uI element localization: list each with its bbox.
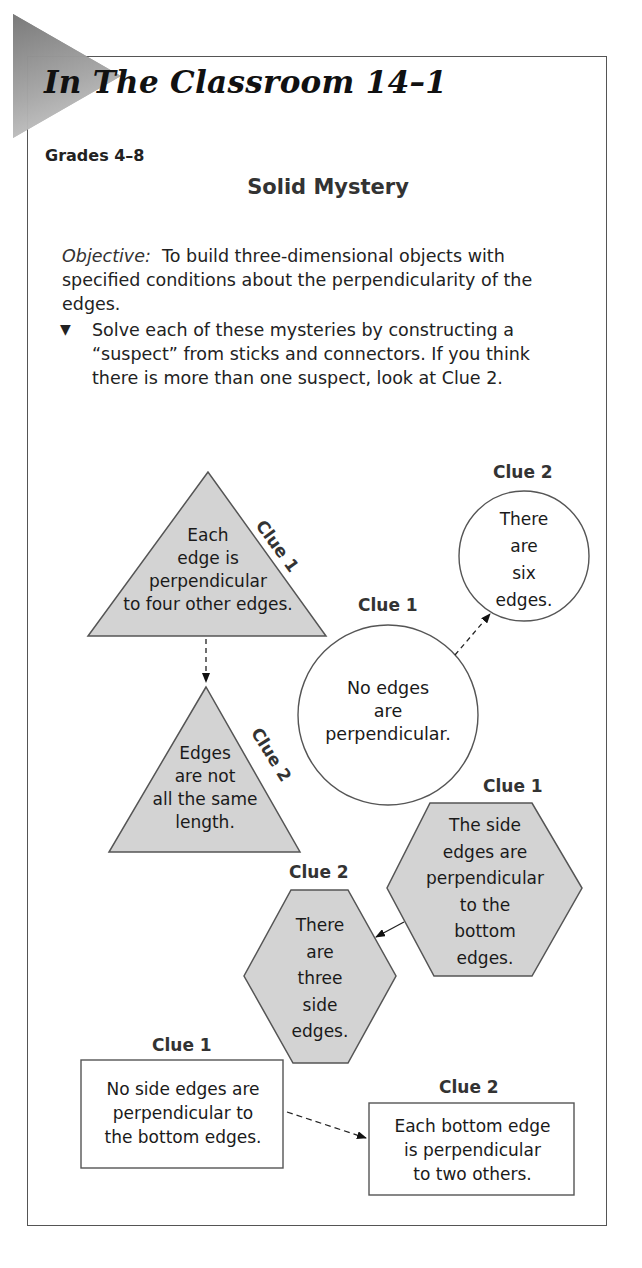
- hexagon-clue2-text: There are three side edges.: [270, 912, 370, 1045]
- hexagon-clue2-label: Clue 2: [289, 862, 349, 882]
- circle-clue1-label: Clue 1: [358, 595, 418, 615]
- arrow-m4: [287, 1112, 366, 1138]
- arrow-m2: [455, 614, 490, 655]
- rect-clue2-label: Clue 2: [439, 1077, 499, 1097]
- rect-clue1-text: No side edges are perpendicular to the b…: [83, 1077, 283, 1149]
- rect-clue2-text: Each bottom edge is perpendicular to two…: [370, 1114, 575, 1186]
- hexagon-clue1-text: The side edges are perpendicular to the …: [410, 812, 560, 971]
- circle-clue2-label: Clue 2: [493, 462, 553, 482]
- circle-clue1-text: No edges are perpendicular.: [308, 677, 468, 746]
- triangle-clue2-text: Edges are not all the same length.: [130, 742, 280, 834]
- arrow-m3: [376, 922, 404, 937]
- hexagon-clue1-label: Clue 1: [483, 776, 543, 796]
- circle-clue2-text: There are six edges.: [474, 506, 574, 614]
- rect-clue1-label: Clue 1: [152, 1035, 212, 1055]
